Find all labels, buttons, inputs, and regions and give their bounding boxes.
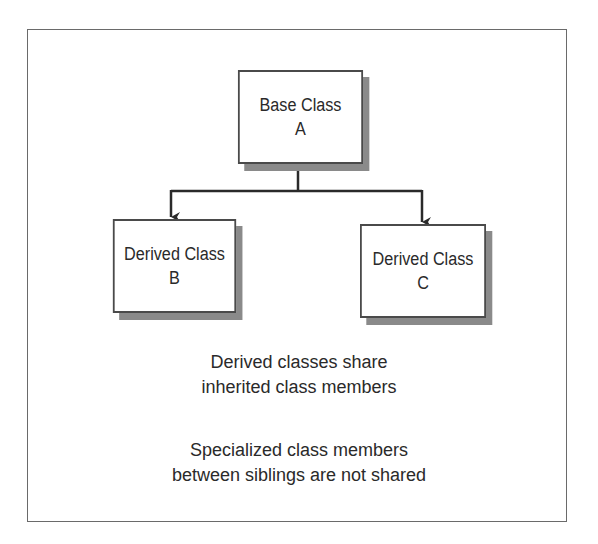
caption-line: Derived classes share (0, 350, 598, 375)
caption-line: inherited class members (0, 375, 598, 400)
derived-class-b-box: Derived Class B (113, 219, 236, 313)
caption-shared-members: Derived classes share inherited class me… (0, 350, 598, 400)
node-label: B (169, 266, 180, 290)
derived-class-c-box: Derived Class C (360, 224, 486, 318)
connector-a-to-c (298, 190, 422, 222)
node-label: A (295, 117, 306, 141)
node-title: Derived Class (124, 242, 225, 266)
node-title: Base Class (260, 93, 342, 117)
node-label: C (417, 271, 429, 295)
caption-specialized-members: Specialized class members between siblin… (0, 438, 598, 488)
connector-a-to-b (171, 164, 298, 217)
base-class-a-box: Base Class A (238, 70, 363, 164)
caption-line: between siblings are not shared (0, 463, 598, 488)
node-title: Derived Class (373, 247, 474, 271)
caption-line: Specialized class members (0, 438, 598, 463)
